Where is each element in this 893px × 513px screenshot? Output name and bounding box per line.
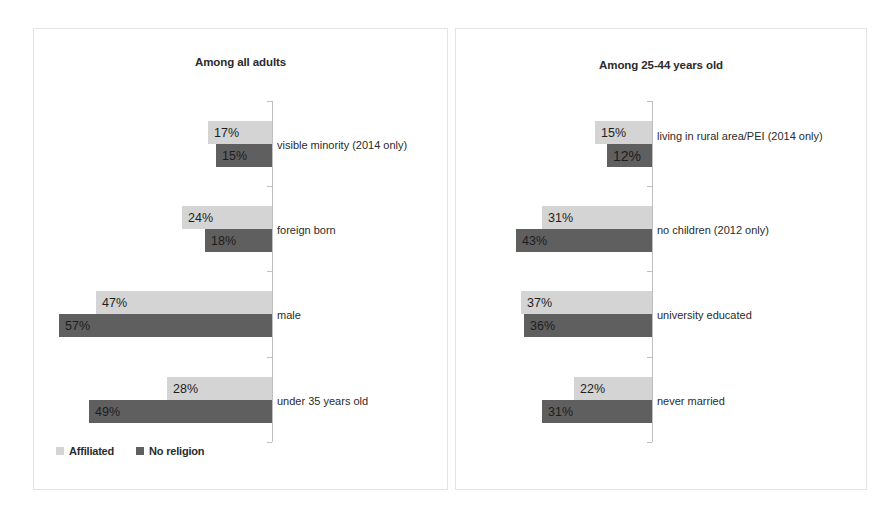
bar-group: 24% 18% foreign born [34, 206, 449, 260]
bar-no-religion[interactable]: 36% [524, 314, 652, 337]
bar-value-label: 24% [188, 211, 213, 224]
bar-value-label: 17% [214, 126, 239, 139]
axis-tick [647, 101, 652, 102]
plot-area-right: 15% 12% living in rural area/PEI (2014 o… [456, 29, 866, 489]
category-label: never married [657, 396, 725, 408]
bar-affiliated[interactable]: 31% [542, 206, 652, 229]
plot-area-left: 17% 15% visible minority (2014 only) 24%… [34, 29, 447, 489]
bar-affiliated[interactable]: 15% [595, 121, 652, 144]
category-label: male [277, 310, 301, 322]
bar-value-label: 36% [530, 319, 555, 332]
bar-no-religion[interactable]: 15% [216, 144, 272, 167]
bar-value-label: 28% [173, 382, 198, 395]
bar-affiliated[interactable]: 17% [208, 121, 272, 144]
legend-item-no-religion[interactable]: No religion [136, 445, 204, 457]
bar-no-religion[interactable]: 12% [607, 144, 652, 167]
legend-item-affiliated[interactable]: Affiliated [56, 445, 114, 457]
bar-group: 22% 31% never married [456, 377, 868, 431]
axis-tick [267, 271, 272, 272]
legend-swatch-icon [56, 447, 64, 455]
category-label: no children (2012 only) [657, 225, 769, 237]
axis-tick [267, 357, 272, 358]
category-label: under 35 years old [277, 396, 368, 408]
bar-group: 47% 57% male [34, 291, 449, 345]
axis-tick [267, 101, 272, 102]
bar-affiliated[interactable]: 24% [182, 206, 272, 229]
bar-value-label: 31% [548, 405, 573, 418]
chart-panel-among-25-44-years-old: Among 25-44 years old 15% 12% living in … [455, 28, 867, 490]
bar-no-religion[interactable]: 49% [89, 400, 272, 423]
axis-tick [647, 357, 652, 358]
bar-value-label: 18% [211, 234, 236, 247]
axis-tick [647, 186, 652, 187]
bar-group: 17% 15% visible minority (2014 only) [34, 121, 449, 175]
bar-affiliated[interactable]: 28% [167, 377, 272, 400]
bar-value-label: 37% [527, 296, 552, 309]
bar-affiliated[interactable]: 47% [96, 291, 272, 314]
category-label: living in rural area/PEI (2014 only) [657, 131, 823, 143]
bar-affiliated[interactable]: 37% [521, 291, 652, 314]
bar-value-label: 43% [522, 234, 547, 247]
bar-group: 37% 36% university educated [456, 291, 868, 345]
bar-no-religion[interactable]: 18% [205, 229, 272, 252]
bar-value-label: 31% [548, 211, 573, 224]
chart-figure: Among all adults 17% 15% visible minorit… [0, 0, 893, 513]
bar-value-label: 12% [613, 149, 688, 163]
bar-no-religion[interactable]: 31% [542, 400, 652, 423]
bar-value-label: 57% [65, 319, 90, 332]
bar-group: 15% 12% living in rural area/PEI (2014 o… [456, 121, 868, 175]
category-label: foreign born [277, 225, 336, 237]
category-label: visible minority (2014 only) [277, 140, 407, 152]
chart-panel-among-all-adults: Among all adults 17% 15% visible minorit… [33, 28, 448, 490]
chart-legend: Affiliated No religion [56, 445, 204, 457]
legend-swatch-icon [136, 447, 144, 455]
bar-value-label: 47% [102, 296, 127, 309]
bar-value-label: 49% [95, 405, 120, 418]
bar-no-religion[interactable]: 43% [516, 229, 652, 252]
bar-group: 28% 49% under 35 years old [34, 377, 449, 431]
legend-label: No religion [149, 445, 204, 457]
category-label: university educated [657, 310, 752, 322]
axis-tick [267, 186, 272, 187]
axis-tick [267, 442, 272, 443]
bar-affiliated[interactable]: 22% [574, 377, 652, 400]
bar-value-label: 22% [580, 382, 605, 395]
bar-no-religion[interactable]: 57% [59, 314, 272, 337]
bar-group: 31% 43% no children (2012 only) [456, 206, 868, 260]
axis-tick [647, 442, 652, 443]
bar-value-label: 15% [601, 126, 626, 139]
bar-value-label: 15% [222, 149, 247, 162]
legend-label: Affiliated [69, 445, 114, 457]
axis-tick [647, 271, 652, 272]
